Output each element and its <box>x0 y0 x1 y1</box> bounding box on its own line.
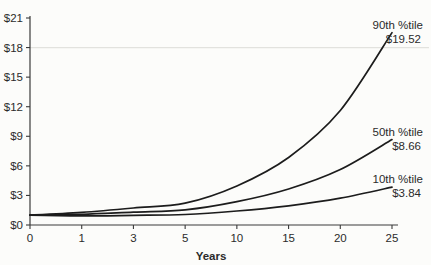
x-tick-label: 0 <box>27 232 33 244</box>
series-name-label-90th-tile: 90th %tile <box>372 19 423 31</box>
series-line-50th-tile <box>30 140 392 216</box>
line-chart: $0$3$6$9$12$15$18$21013510152025Years90t… <box>0 0 431 265</box>
x-axis-title: Years <box>196 250 227 262</box>
series-value-label-10th-tile: $3.84 <box>392 187 421 199</box>
x-tick-label: 15 <box>282 232 295 244</box>
series-line-90th-tile <box>30 33 392 216</box>
y-tick-label: $3 <box>10 189 23 201</box>
series-value-label-50th-tile: $8.66 <box>392 140 421 152</box>
x-tick-label: 1 <box>79 232 85 244</box>
series-value-label-90th-tile: $19.52 <box>386 33 421 45</box>
y-tick-label: $9 <box>10 130 23 142</box>
x-tick-label: 25 <box>386 232 399 244</box>
x-tick-label: 20 <box>334 232 347 244</box>
x-tick-label: 10 <box>230 232 243 244</box>
series-name-label-10th-tile: 10th %tile <box>372 173 423 185</box>
y-tick-label: $0 <box>10 219 23 231</box>
y-tick-label: $15 <box>4 71 23 83</box>
y-tick-label: $18 <box>4 42 23 54</box>
x-tick-label: 3 <box>130 232 136 244</box>
y-tick-label: $12 <box>4 101 23 113</box>
series-name-label-50th-tile: 50th %tile <box>372 126 423 138</box>
percentile-growth-chart-figure: $0$3$6$9$12$15$18$21013510152025Years90t… <box>0 0 431 265</box>
x-tick-label: 5 <box>182 232 188 244</box>
y-tick-label: $21 <box>4 12 23 24</box>
y-tick-label: $6 <box>10 160 23 172</box>
